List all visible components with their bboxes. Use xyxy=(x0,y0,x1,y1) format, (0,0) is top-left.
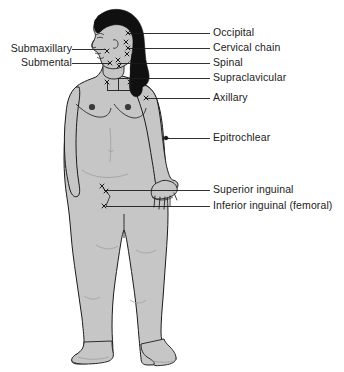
label-submental: Submental xyxy=(3,57,72,68)
epitrochlear-node-marker xyxy=(164,136,168,140)
areola-right xyxy=(125,104,131,110)
label-superior-inguinal: Superior inguinal xyxy=(213,184,294,195)
label-axillary: Axillary xyxy=(213,92,248,103)
label-spinal: Spinal xyxy=(213,57,243,68)
label-epitrochlear: Epitrochlear xyxy=(213,132,270,143)
label-submaxillary: Submaxillary xyxy=(3,43,72,54)
label-supraclavicular: Supraclavicular xyxy=(213,72,286,83)
feet xyxy=(72,339,176,366)
lymph-node-diagram: Occipital Cervical chain Spinal Supracla… xyxy=(0,0,344,372)
areola-left xyxy=(89,104,95,110)
label-cervical-chain: Cervical chain xyxy=(213,42,280,53)
label-inferior-inguinal: Inferior inguinal (femoral) xyxy=(213,200,332,211)
label-occipital: Occipital xyxy=(213,27,254,38)
